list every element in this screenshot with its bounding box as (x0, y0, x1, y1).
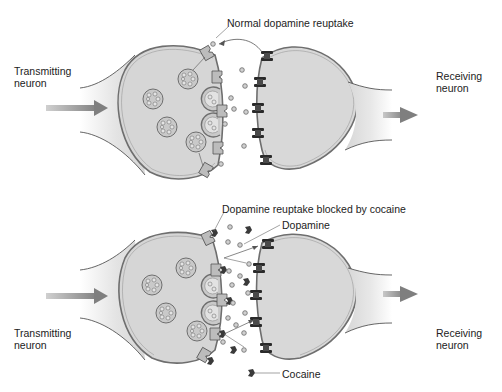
transporter-icon (217, 294, 227, 306)
vesicle-icon (187, 321, 207, 341)
dopamine-callout: Dopamine (282, 219, 330, 231)
label-line: Receiving (436, 327, 502, 339)
receiving-terminal-2 (257, 234, 357, 359)
panel-cocaine (46, 212, 418, 377)
normal-reuptake-callout: Normal dopamine reuptake (227, 17, 354, 29)
vesicle-icon (178, 69, 198, 89)
transmitting-neuron-label-2: Transmitting neuron (14, 327, 94, 351)
label-line: neuron (14, 339, 94, 351)
label-line: neuron (14, 77, 94, 89)
vesicle-icon (186, 132, 206, 152)
label-line: Transmitting (14, 65, 94, 77)
vesicle-icon (156, 303, 176, 323)
cocaine-icon (219, 330, 226, 338)
transporter-icon (217, 105, 227, 117)
vesicle-icon (143, 89, 163, 109)
receiving-neuron-label-2: Receiving neuron (436, 327, 502, 351)
label-line: Receiving (436, 70, 502, 82)
label-line: neuron (436, 82, 502, 94)
vesicle-icon (176, 258, 196, 278)
panel-normal (46, 27, 418, 179)
cocaine-icon (220, 266, 227, 274)
transmitting-neuron-label-1: Transmitting neuron (14, 65, 94, 89)
label-line: neuron (436, 339, 502, 351)
label-line: Transmitting (14, 327, 94, 339)
receiving-neuron-label-1: Receiving neuron (436, 70, 502, 94)
receiving-terminal-1 (257, 47, 357, 169)
blocked-reuptake-callout: Dopamine reuptake blocked by cocaine (222, 203, 406, 215)
vesicle-icon (142, 275, 162, 295)
cocaine-icon (207, 357, 214, 365)
cocaine-legend-icon (248, 369, 255, 377)
vesicle-icon (157, 117, 177, 137)
cocaine-callout: Cocaine (282, 368, 321, 380)
